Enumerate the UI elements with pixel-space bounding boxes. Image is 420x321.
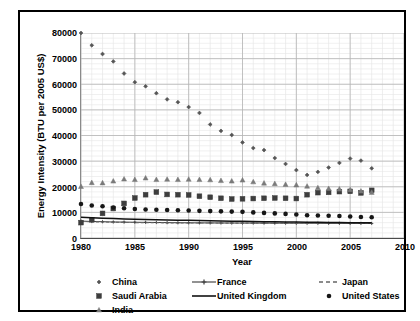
y-tick-label: 30000 xyxy=(52,157,77,167)
legend-item-india[interactable]: India xyxy=(86,304,191,316)
x-tick-label: 1985 xyxy=(125,242,145,252)
y-tick-label: 50000 xyxy=(52,105,77,115)
chart-figure: Energy Intensity (BTU per 2005 US$) Year… xyxy=(0,0,420,321)
chart-frame: Energy Intensity (BTU per 2005 US$) Year… xyxy=(18,10,406,312)
legend-label: China xyxy=(112,277,137,287)
legend-item-united-states[interactable]: United States xyxy=(316,290,406,302)
x-tick-label: 2010 xyxy=(395,242,415,252)
legend-label: France xyxy=(217,277,247,287)
y-tick-label: 40000 xyxy=(52,131,77,141)
y-axis-title: Energy Intensity (BTU per 2005 US$) xyxy=(35,54,46,219)
y-tick-label: 80000 xyxy=(52,28,77,38)
legend-label: India xyxy=(112,305,133,315)
plot-area: 0100002000030000400005000060000700008000… xyxy=(80,33,404,239)
united-kingdom-marker-icon xyxy=(191,290,217,302)
x-axis-title: Year xyxy=(232,256,252,267)
chart-legend: China France Japan Saudi Arabia xyxy=(86,275,406,317)
x-tick-label: 1980 xyxy=(71,242,91,252)
x-tick-label: 1990 xyxy=(179,242,199,252)
legend-label: Japan xyxy=(342,277,368,287)
legend-item-japan[interactable]: Japan xyxy=(316,276,406,288)
y-tick-label: 10000 xyxy=(52,208,77,218)
legend-item-china[interactable]: China xyxy=(86,276,191,288)
india-marker-icon xyxy=(86,304,112,316)
legend-label: United Kingdom xyxy=(217,291,287,301)
x-tick-label: 2005 xyxy=(341,242,361,252)
y-tick-label: 20000 xyxy=(52,183,77,193)
saudi-arabia-marker-icon xyxy=(86,290,112,302)
legend-item-united-kingdom[interactable]: United Kingdom xyxy=(191,290,316,302)
legend-row: China France Japan xyxy=(86,275,406,289)
x-tick-label: 2000 xyxy=(287,242,307,252)
y-tick-label: 60000 xyxy=(52,80,77,90)
legend-label: United States xyxy=(342,291,400,301)
legend-row: India xyxy=(86,303,406,317)
x-axis-ticks: 1980198519901995200020052010 xyxy=(81,33,404,238)
united-states-marker-icon xyxy=(316,290,342,302)
china-marker-icon xyxy=(86,276,112,288)
japan-marker-icon xyxy=(316,276,342,288)
france-marker-icon xyxy=(191,276,217,288)
legend-label: Saudi Arabia xyxy=(112,291,167,301)
x-tick-label: 1995 xyxy=(233,242,253,252)
legend-item-france[interactable]: France xyxy=(191,276,316,288)
y-tick-label: 70000 xyxy=(52,54,77,64)
legend-row: Saudi Arabia United Kingdom United State… xyxy=(86,289,406,303)
legend-item-saudi-arabia[interactable]: Saudi Arabia xyxy=(86,290,191,302)
